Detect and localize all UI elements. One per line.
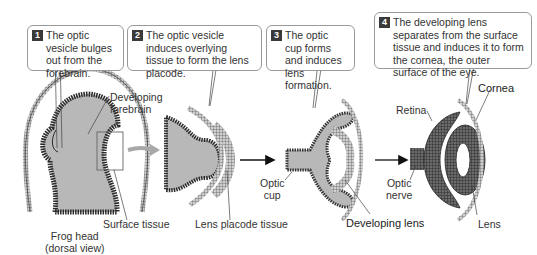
step-4-badge: 4 — [379, 17, 390, 28]
step-3-callout: 3 The optic cup forms and induces lens f… — [266, 25, 355, 71]
label-surface-tissue: Surface tissue — [103, 218, 170, 230]
label-developing-lens: Developing lens — [346, 217, 424, 229]
step-4-text: The developing lens separates from the s… — [393, 16, 524, 78]
label-developing-forebrain: Developing forebrain — [110, 91, 170, 115]
label-lens-placode-tissue: Lens placode tissue — [195, 218, 288, 230]
label-retina: Retina — [396, 104, 426, 116]
label-optic-cup: Optic cup — [260, 177, 285, 201]
zoom-arrow-head — [150, 144, 160, 156]
step-2-badge: 2 — [132, 30, 143, 41]
step-4-callout: 4 The developing lens separates from the… — [374, 12, 532, 69]
label-frog-head: Frog head (dorsal view) — [45, 230, 105, 254]
label-lens: Lens — [478, 218, 501, 230]
step-3-badge: 3 — [271, 30, 282, 41]
lens-placode-illustration — [166, 108, 231, 205]
eye-illustration — [410, 100, 485, 220]
step-1-badge: 1 — [32, 30, 43, 41]
optic-cup-illustration — [287, 100, 361, 220]
step-1-callout: 1 The optic vesicle bulges out from the … — [27, 25, 124, 71]
label-optic-nerve: Optic nerve — [386, 177, 412, 201]
label-cornea: Cornea — [478, 82, 514, 94]
zoom-arrow — [128, 148, 152, 150]
step-2-callout: 2 The optic vesicle induces overlying ti… — [127, 25, 262, 71]
